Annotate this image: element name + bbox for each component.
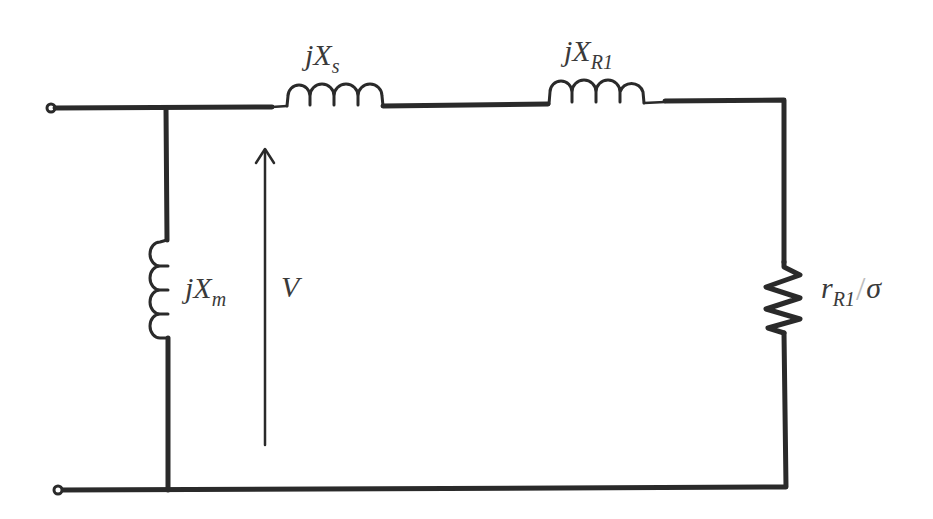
top-wire-thin-right [644, 102, 665, 103]
top-wire-thin-left [272, 106, 287, 107]
top-wire-middle [383, 104, 548, 106]
shunt-wire-top [166, 108, 167, 240]
label-rr1-sigma: rR1/σ [821, 270, 881, 304]
label-v-main: V [281, 270, 299, 303]
resistor-rr1 [766, 262, 800, 333]
label-rr1-slash: / [856, 270, 865, 307]
top-wire-right [665, 100, 784, 262]
label-jxs: jXs [305, 40, 339, 70]
label-jxr1-main: jX [564, 34, 591, 67]
inductor-jxs [287, 84, 383, 106]
top-wire-left [55, 107, 272, 108]
label-jxm: jXm [185, 273, 226, 303]
circuit-diagram: jXs jXR1 jXm V rR1/σ [0, 0, 933, 519]
label-jxs-main: jX [305, 38, 332, 71]
label-rr1-sigma: σ [866, 271, 881, 304]
label-jxm-sub: m [212, 288, 226, 310]
label-jxr1: jXR1 [564, 36, 613, 66]
inductor-jxm [150, 240, 168, 338]
label-jxs-sub: s [332, 55, 340, 77]
circuit-drawing [0, 0, 933, 519]
inductor-jxr1 [549, 80, 644, 104]
label-v: V [281, 272, 299, 302]
label-jxr1-sub: R1 [591, 51, 613, 73]
input-terminal-bottom [54, 486, 62, 494]
label-rr1-main: r [821, 271, 833, 304]
label-jxm-main: jX [185, 271, 212, 304]
label-rr1-sub: R1 [833, 288, 855, 310]
